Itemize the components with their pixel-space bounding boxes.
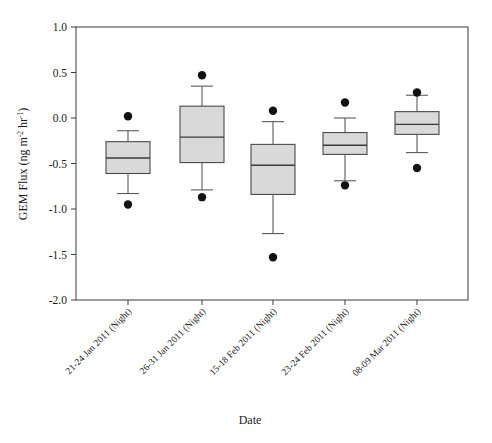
x-tick-label: 21-24 Jan 2011 (Night) [64, 306, 134, 376]
outlier-point [269, 253, 277, 261]
y-tick-label: -0.5 [49, 158, 67, 170]
y-axis-title-lead: GEM Flux (ng m [16, 137, 30, 221]
x-tick-label: 26-31 Jan 2011 (Night) [138, 306, 208, 376]
y-tick-label: 0.5 [53, 67, 68, 79]
y-tick-label: -1.5 [49, 249, 67, 261]
box-plot-group [323, 98, 367, 189]
box-plot-group [395, 88, 439, 172]
box-plot-group [106, 112, 150, 209]
outlier-point [341, 98, 349, 106]
box-iqr-rect [395, 112, 439, 135]
outlier-point [124, 112, 132, 120]
y-tick-label: -2.0 [49, 294, 67, 306]
y-axis-title-mid: hr [16, 118, 30, 131]
x-axis-ticks [128, 300, 417, 305]
x-tick-label: 15-18 Feb 2011 (Night) [208, 306, 280, 378]
box-iqr-rect [251, 144, 295, 194]
outlier-point [413, 164, 421, 172]
box-iqr-rect [180, 106, 224, 162]
y-axis-title-tail: ) [16, 108, 30, 112]
boxplot-svg: 1.00.50.0-0.5-1.0-1.5-2.0 21-24 Jan 2011… [0, 0, 492, 443]
box-plot-group [251, 107, 295, 262]
boxplot-figure: 1.00.50.0-0.5-1.0-1.5-2.0 21-24 Jan 2011… [0, 0, 492, 443]
x-axis-title: Date [239, 413, 262, 427]
y-axis-ticks: 1.00.50.0-0.5-1.0-1.5-2.0 [49, 21, 76, 306]
box-iqr-rect [323, 133, 367, 155]
x-tick-label: 08-09 Mar 2011 (Night) [350, 306, 423, 379]
outlier-point [413, 88, 421, 96]
outlier-point [198, 193, 206, 201]
box-plot-group [180, 71, 224, 201]
outlier-point [341, 181, 349, 189]
y-tick-label: 1.0 [53, 21, 68, 33]
y-axis-title: GEM Flux (ng m-2 hr-1) [16, 108, 30, 221]
outlier-point [269, 107, 277, 115]
box-plot-series [106, 71, 439, 261]
outlier-point [124, 200, 132, 208]
outlier-point [198, 71, 206, 79]
x-tick-label: 23-24 Feb 2011 (Night) [280, 306, 352, 378]
x-axis-tick-labels: 21-24 Jan 2011 (Night)26-31 Jan 2011 (Ni… [64, 306, 423, 379]
y-tick-label: 0.0 [53, 112, 68, 124]
y-tick-label: -1.0 [49, 203, 67, 215]
